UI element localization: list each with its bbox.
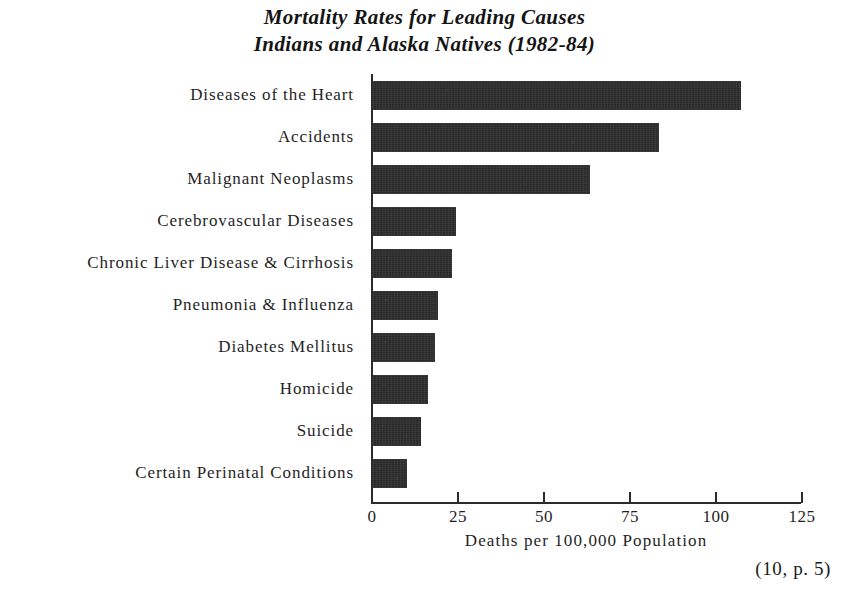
bar-row — [373, 116, 833, 158]
category-axis-labels: Diseases of the Heart Accidents Malignan… — [0, 74, 363, 494]
source-citation: (10, p. 5) — [755, 558, 831, 580]
category-label-chronic-liver-disease-cirrhosis: Chronic Liver Disease & Cirrhosis — [0, 242, 363, 284]
x-tick-label-100: 100 — [686, 507, 746, 527]
bar-cerebrovascular-diseases — [373, 207, 456, 236]
bar-suicide — [373, 417, 421, 446]
category-label-diabetes-mellitus: Diabetes Mellitus — [0, 326, 363, 368]
category-label-cerebrovascular-diseases: Cerebrovascular Diseases — [0, 200, 363, 242]
x-tick-mark — [543, 492, 545, 503]
bar-malignant-neoplasms — [373, 165, 590, 194]
bar-series — [373, 74, 833, 494]
bar-diabetes-mellitus — [373, 333, 435, 362]
category-label-accidents: Accidents — [0, 116, 363, 158]
bar-homicide — [373, 375, 428, 404]
category-label-suicide: Suicide — [0, 410, 363, 452]
x-tick-label-75: 75 — [600, 507, 660, 527]
x-tick-label-50: 50 — [514, 507, 574, 527]
bar-row — [373, 284, 833, 326]
bar-row — [373, 326, 833, 368]
x-tick-mark — [457, 492, 459, 503]
bar-pneumonia-influenza — [373, 291, 438, 320]
bar-accidents — [373, 123, 659, 152]
category-label-malignant-neoplasms: Malignant Neoplasms — [0, 158, 363, 200]
bar-row — [373, 410, 833, 452]
category-label-homicide: Homicide — [0, 368, 363, 410]
x-tick-label-25: 25 — [428, 507, 488, 527]
category-label-certain-perinatal-conditions: Certain Perinatal Conditions — [0, 452, 363, 494]
bar-row — [373, 368, 833, 410]
x-tick-mark — [371, 492, 373, 503]
x-tick-mark — [801, 492, 803, 503]
x-tick-label-0: 0 — [342, 507, 402, 527]
bar-row — [373, 158, 833, 200]
bar-certain-perinatal-conditions — [373, 459, 407, 488]
bar-row — [373, 242, 833, 284]
category-label-pneumonia-influenza: Pneumonia & Influenza — [0, 284, 363, 326]
x-tick-mark — [715, 492, 717, 503]
plot-area: Diseases of the Heart Accidents Malignan… — [0, 0, 849, 592]
bar-row — [373, 74, 833, 116]
category-label-diseases-of-the-heart: Diseases of the Heart — [0, 74, 363, 116]
bar-diseases-of-the-heart — [373, 81, 741, 110]
x-tick-mark — [629, 492, 631, 503]
chart-figure: Mortality Rates for Leading Causes India… — [0, 0, 849, 592]
value-axis-line — [371, 502, 801, 504]
value-axis-title: Deaths per 100,000 Population — [371, 531, 801, 551]
x-tick-label-125: 125 — [772, 507, 832, 527]
bar-chronic-liver-disease-cirrhosis — [373, 249, 452, 278]
bar-row — [373, 200, 833, 242]
category-axis-line — [371, 74, 373, 504]
bar-row — [373, 452, 833, 494]
